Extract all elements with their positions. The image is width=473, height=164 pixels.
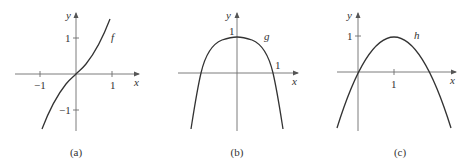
y-tick-label-1: 1 — [65, 32, 71, 44]
x-tick-label-1: 1 — [110, 79, 116, 91]
x-tick-label-neg1: −1 — [34, 79, 46, 91]
function-label-h: h — [414, 29, 420, 41]
panel-c: 1 1 y x h (c) — [337, 9, 456, 159]
panel-b: 1 1 y x g (b) — [178, 9, 298, 159]
y-axis-label: y — [225, 9, 231, 21]
y-tick-label-neg1: −1 — [59, 104, 71, 116]
y-axis-label: y — [65, 9, 71, 21]
y-tick-label-1: 1 — [347, 30, 353, 42]
figure: −1 1 1 −1 y x f (a) 1 1 y x g (b) 1 1 y … — [0, 0, 473, 164]
function-label-g: g — [264, 30, 270, 42]
x-axis-label: x — [291, 75, 297, 87]
caption-c: (c) — [394, 146, 407, 159]
x-tick-label-1: 1 — [391, 78, 397, 90]
caption-b: (b) — [231, 146, 244, 159]
y-axis-label: y — [346, 9, 352, 21]
function-label-f: f — [111, 31, 116, 43]
x-axis-label: x — [449, 74, 455, 86]
x-axis-label: x — [133, 76, 139, 88]
x-tick-label-1: 1 — [275, 59, 281, 71]
caption-a: (a) — [70, 146, 83, 159]
y-tick-label-1: 1 — [229, 25, 235, 37]
panel-a: −1 1 1 −1 y x f (a) — [15, 9, 139, 159]
